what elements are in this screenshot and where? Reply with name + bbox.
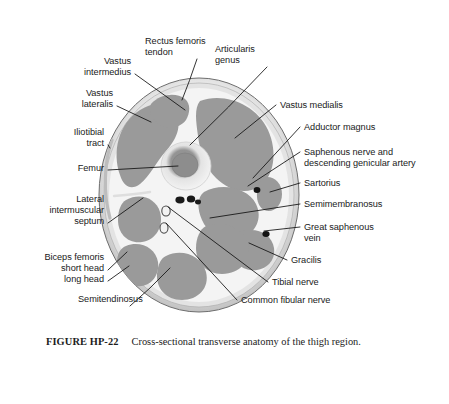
muscle-biceps-femoris-short-head [118, 196, 161, 242]
label-adductor-magnus: Adductor magnus [304, 122, 375, 133]
figure-caption-label: FIGURE HP-22 [46, 336, 119, 347]
label-semimembranosus: Semimembranosus [304, 199, 382, 210]
figure-caption-text: Cross-sectional transverse anatomy of th… [132, 336, 361, 347]
popliteal-vessel-c [195, 200, 201, 205]
great-saphenous-vein-marker [262, 231, 269, 237]
label-biceps-short-head: short head [61, 263, 104, 274]
popliteal-vessel-b [187, 195, 195, 202]
label-saphenous-nerve: Saphenous nerve and descending genicular… [304, 147, 416, 169]
label-lateral-intermuscular-septum: Lateral intermuscular septum [50, 194, 105, 228]
label-vastus-lateralis: Vastus lateralis [82, 88, 113, 110]
label-iliotibial-tract: Iliotibial tract [74, 127, 104, 149]
label-sartorius: Sartorius [304, 178, 340, 189]
label-great-saphenous-vein: Great saphenous vein [304, 222, 374, 244]
label-femur: Femur [78, 163, 104, 174]
label-vastus-medialis: Vastus medialis [280, 100, 343, 111]
label-gracilis: Gracilis [291, 255, 321, 266]
label-rectus-femoris-tendon: Rectus femoris tendon [145, 36, 206, 58]
label-biceps-long-head: long head [64, 274, 104, 285]
label-semitendinosus: Semitendinosus [78, 294, 143, 305]
label-vastus-intermedius: Vastus intermedius [84, 56, 131, 78]
femur-bone [161, 142, 211, 190]
label-common-fibular-nerve: Common fibular nerve [241, 295, 330, 306]
label-biceps-femoris: Biceps femoris [44, 252, 104, 263]
figure-caption: FIGURE HP-22Cross-sectional transverse a… [46, 336, 361, 347]
saphenous-nerve-marker [254, 187, 261, 193]
popliteal-vessel-a [175, 197, 184, 204]
figure-page: Vastus intermediusRectus femoris tendonA… [0, 0, 449, 404]
label-articularis-genus: Articularis genus [215, 44, 255, 66]
label-tibial-nerve: Tibial nerve [272, 277, 319, 288]
